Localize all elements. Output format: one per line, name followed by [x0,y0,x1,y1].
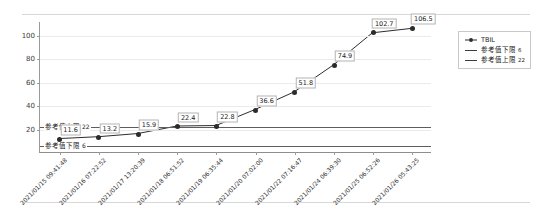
y-axis-tick-label: 100 [22,33,35,40]
y-axis-tick-label: 80 [26,56,35,63]
data-point-label: 102.7 [372,18,397,29]
legend-item[interactable]: 参考值下限6 [463,45,525,55]
plot-area: 20406080100参考值上限 22参考值下限 611.613.215.922… [39,22,431,153]
data-point-label: 15.9 [139,120,159,131]
data-point-marker[interactable] [214,124,219,129]
x-axis-tick-label: 2021/01/26 05:43:25 [372,157,421,206]
legend-item-label: 参考值下限6 [481,47,522,54]
x-axis-labels: 2021/01/15 09:41:482021/01/16 07:22:5220… [39,155,431,202]
gridline [40,59,431,60]
y-axis-tick-mark [37,106,40,107]
y-axis-tick-mark [37,59,40,60]
data-point-marker[interactable] [136,132,141,137]
legend-item-label: 参考值上限22 [481,57,525,64]
y-axis-tick-mark [37,36,40,37]
data-point-label: 22.8 [217,112,237,123]
data-point-marker[interactable] [57,137,62,142]
reference-line-caption: 参考值下限 6 [44,143,87,150]
data-point-marker[interactable] [410,26,415,31]
legend-item-value: 6 [518,47,522,53]
gridline [40,106,431,107]
legend-line-marker-icon [463,38,478,42]
y-axis-tick-label: 20 [26,126,35,133]
data-point-marker[interactable] [332,63,337,68]
y-axis-tick-mark [37,83,40,84]
legend-line-icon [463,50,478,51]
data-point-marker[interactable] [253,108,258,113]
chart-page: 20406080100参考值上限 22参考值下限 611.613.215.922… [0,0,552,217]
reference-line [40,146,431,147]
data-point-label: 36.6 [256,96,276,107]
gridline [40,83,431,84]
data-point-label: 22.4 [178,112,198,123]
legend-item-label: TBIL [481,37,495,44]
legend-item[interactable]: 参考值上限22 [463,55,525,65]
legend-item[interactable]: TBIL [463,35,525,45]
legend-line-icon [463,60,478,61]
data-point-label: 74.9 [335,51,355,62]
y-axis-tick-mark [37,130,40,131]
y-axis-tick-label: 40 [26,103,35,110]
line-chart: 20406080100参考值上限 22参考值下限 611.613.215.922… [0,14,552,202]
legend-item-value: 22 [518,57,525,63]
y-axis-tick-label: 60 [26,79,35,86]
data-point-label: 11.6 [60,125,80,136]
data-point-label: 51.8 [296,78,316,89]
data-point-label: 13.2 [100,123,120,134]
chart-legend: TBIL参考值下限6参考值上限22 [458,31,531,69]
gridline [40,36,431,37]
data-point-label: 106.5 [411,14,436,25]
